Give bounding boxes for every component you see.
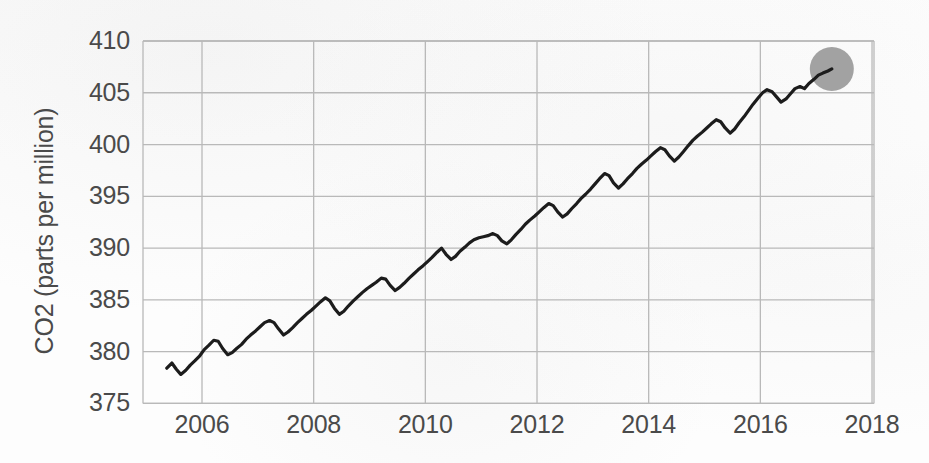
plot-area [0,0,929,463]
co2-chart-figure: CO2 (parts per million) 3753803853903954… [0,0,929,463]
vertical-gridlines [143,41,874,403]
co2-trend-line [167,69,832,374]
horizontal-gridlines [143,41,874,403]
